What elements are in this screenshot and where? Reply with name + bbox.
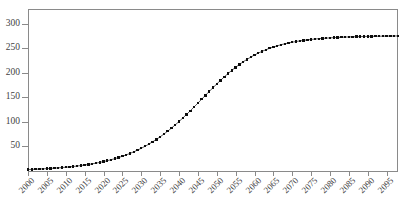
x-axis-line (28, 171, 398, 172)
y-tick-mark (22, 146, 29, 147)
y-tick-mark (22, 24, 29, 25)
y-tick-mark (22, 73, 29, 74)
y-tick-label: 300 (6, 19, 20, 29)
y-tick-mark (22, 48, 29, 49)
plot-frame (28, 9, 398, 172)
y-tick-label: 250 (6, 43, 20, 53)
chart-container: 50100150200250300 2000200520102015202020… (0, 0, 418, 217)
y-axis-line (28, 9, 29, 172)
y-tick-label: 50 (11, 141, 21, 151)
y-tick-label: 100 (6, 117, 20, 127)
y-tick-label: 200 (6, 68, 20, 78)
y-tick-mark (22, 122, 29, 123)
y-tick-mark (22, 97, 29, 98)
y-tick-label: 150 (6, 92, 20, 102)
